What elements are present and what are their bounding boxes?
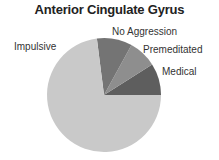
label-premeditated: Premeditated bbox=[143, 44, 202, 55]
label-medical: Medical bbox=[162, 66, 196, 77]
label-no-aggression: No Aggression bbox=[112, 26, 177, 37]
pie-chart bbox=[0, 0, 219, 160]
label-impulsive: Impulsive bbox=[14, 41, 56, 52]
